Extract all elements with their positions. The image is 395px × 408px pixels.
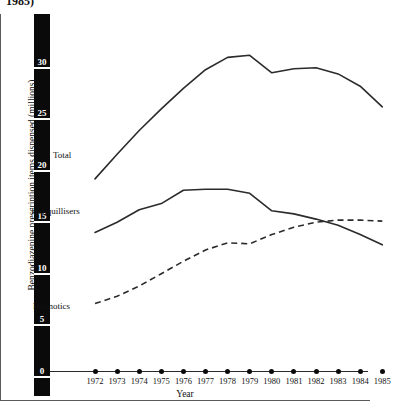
y-tick-mark [34,118,50,120]
y-tick-mark [34,67,50,69]
x-axis-marker [358,369,363,374]
y-tick-label: 25 [34,109,50,118]
y-tick-mark [34,376,50,378]
series-line-total [95,55,382,179]
series-label-total: Total [53,150,71,160]
y-tick-label: 0 [34,367,50,376]
series-label-tranquillisers: Tranquillisers [30,206,80,216]
x-axis-marker [269,369,274,374]
x-axis-marker [115,369,120,374]
x-axis-marker [159,369,164,374]
x-axis-marker [380,369,385,374]
y-tick-mark [34,324,50,326]
x-axis-marker [336,369,341,374]
x-axis-line [50,371,368,372]
series-label-hypnotics: Hypnotics [33,301,70,311]
x-axis-title: Year [0,389,370,399]
x-tick-label: 1985 [365,376,395,386]
y-tick-label: 10 [34,264,50,273]
x-axis-marker [225,369,230,374]
y-tick-label: 5 [34,315,50,324]
y-tick-label: 20 [34,161,50,170]
x-axis-marker [181,369,186,374]
series-line-tranquillisers [95,189,382,245]
y-tick-mark [34,170,50,172]
y-tick-mark [34,273,50,275]
x-axis-marker [247,369,252,374]
series-line-hypnotics [95,220,382,304]
y-tick-label: 30 [34,58,50,67]
x-axis-marker [137,369,142,374]
x-axis-marker [291,369,296,374]
x-axis-marker [203,369,208,374]
x-axis-marker [314,369,319,374]
x-axis-marker [93,369,98,374]
y-tick-mark [34,221,50,223]
